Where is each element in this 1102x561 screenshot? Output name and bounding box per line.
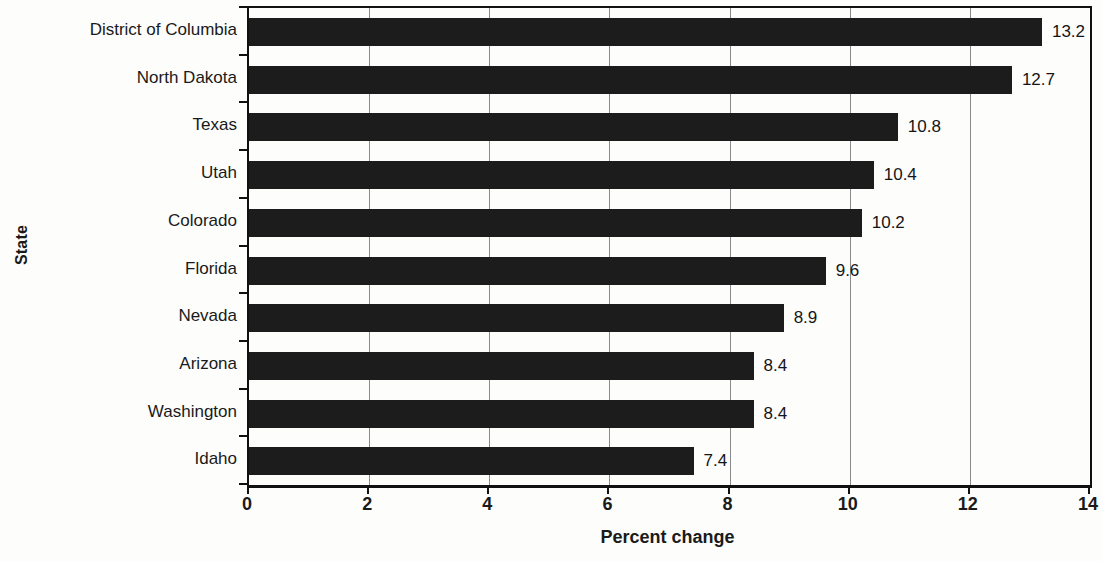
y-tick-mark xyxy=(239,292,247,294)
y-axis-category-labels: District of ColumbiaNorth DakotaTexasUta… xyxy=(40,6,237,483)
x-tick-label: 8 xyxy=(723,494,733,515)
x-tick-label: 2 xyxy=(362,494,372,515)
bar-value-label: 12.7 xyxy=(1022,66,1055,94)
category-label: North Dakota xyxy=(137,54,237,102)
bar xyxy=(249,18,1042,46)
bar-row: 10.8 xyxy=(249,103,1090,151)
bar-value-label: 10.2 xyxy=(872,209,905,237)
x-tick-mark xyxy=(487,486,489,494)
bar xyxy=(249,304,784,332)
x-tick-mark xyxy=(728,486,730,494)
x-tick-mark xyxy=(607,486,609,494)
category-label: Texas xyxy=(193,101,237,149)
x-tick-label: 10 xyxy=(838,494,858,515)
category-label: Idaho xyxy=(194,435,237,483)
category-label: Washington xyxy=(148,388,237,436)
y-tick-mark xyxy=(239,197,247,199)
x-tick-mark xyxy=(848,486,850,494)
bar-row: 10.2 xyxy=(249,199,1090,247)
bar-value-label: 8.9 xyxy=(794,304,818,332)
bar xyxy=(249,352,754,380)
bar-value-label: 10.8 xyxy=(908,113,941,141)
category-label: Florida xyxy=(185,245,237,293)
category-label: District of Columbia xyxy=(90,6,237,54)
bar-chart-figure: State District of ColumbiaNorth DakotaTe… xyxy=(0,0,1102,561)
bar-row: 8.4 xyxy=(249,390,1090,438)
x-tick-mark xyxy=(367,486,369,494)
y-tick-mark xyxy=(239,101,247,103)
bar-value-label: 7.4 xyxy=(704,447,728,475)
y-tick-mark xyxy=(239,435,247,437)
bar-row: 8.9 xyxy=(249,294,1090,342)
bar xyxy=(249,161,874,189)
bar xyxy=(249,257,826,285)
bar xyxy=(249,447,694,475)
x-tick-label: 0 xyxy=(242,494,252,515)
bar-value-label: 8.4 xyxy=(764,352,788,380)
bar xyxy=(249,113,898,141)
bar-value-label: 9.6 xyxy=(836,257,860,285)
y-tick-mark xyxy=(239,340,247,342)
bar-value-label: 8.4 xyxy=(764,400,788,428)
y-tick-mark xyxy=(239,245,247,247)
x-axis-title: Percent change xyxy=(247,527,1088,548)
x-tick-label: 4 xyxy=(482,494,492,515)
bar-series: 13.212.710.810.410.29.68.98.48.47.4 xyxy=(249,8,1090,485)
bar-value-label: 13.2 xyxy=(1052,18,1085,46)
bar-row: 7.4 xyxy=(249,437,1090,485)
x-tick-mark xyxy=(968,486,970,494)
x-tick-mark xyxy=(247,486,249,494)
y-tick-mark xyxy=(239,54,247,56)
category-label: Colorado xyxy=(168,197,237,245)
bar xyxy=(249,66,1012,94)
y-tick-mark xyxy=(239,388,247,390)
y-axis-title-text: State xyxy=(13,224,31,264)
bar xyxy=(249,400,754,428)
y-tick-mark xyxy=(239,483,247,485)
bar xyxy=(249,209,862,237)
bar-row: 12.7 xyxy=(249,56,1090,104)
x-tick-label: 6 xyxy=(602,494,612,515)
y-tick-mark xyxy=(239,149,247,151)
x-axis-tick-labels: 02468101214 xyxy=(247,494,1092,518)
category-label: Utah xyxy=(201,149,237,197)
y-axis-title: State xyxy=(2,0,42,489)
bar-row: 8.4 xyxy=(249,342,1090,390)
x-tick-label: 14 xyxy=(1078,494,1098,515)
y-tick-mark xyxy=(239,6,247,8)
bar-row: 9.6 xyxy=(249,247,1090,295)
category-label: Arizona xyxy=(179,340,237,388)
bar-row: 13.2 xyxy=(249,8,1090,56)
x-tick-label: 12 xyxy=(958,494,978,515)
bar-value-label: 10.4 xyxy=(884,161,917,189)
category-label: Nevada xyxy=(178,292,237,340)
plot-area: 13.212.710.810.410.29.68.98.48.47.4 xyxy=(247,6,1092,488)
x-tick-mark xyxy=(1088,486,1090,494)
bar-row: 10.4 xyxy=(249,151,1090,199)
y-axis-tick-marks xyxy=(239,6,247,486)
